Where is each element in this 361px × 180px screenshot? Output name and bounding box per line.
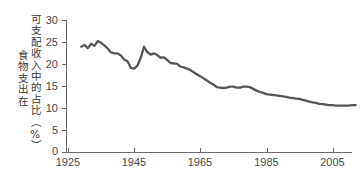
chart-plot-svg (0, 0, 361, 180)
data-series-line (81, 41, 355, 105)
chart-container: 可支配收入中的占比（%） 食物支出在 30 25 20 15 10 5 0 19… (0, 0, 361, 180)
